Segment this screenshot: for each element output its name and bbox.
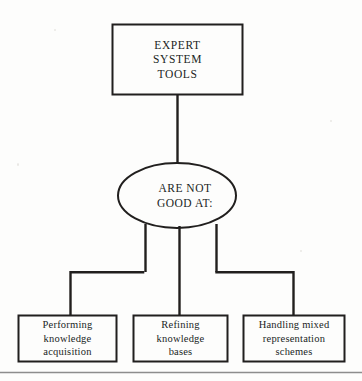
node-refining-knowledge-bases	[134, 316, 228, 362]
diagram-page: EXPERT SYSTEM TOOLS ARE NOT GOOD AT: Per…	[0, 0, 362, 381]
node-performing-knowledge-acquisition	[19, 316, 117, 362]
node-are-not-good-at	[118, 163, 236, 228]
node-handling-mixed-representation-schemes	[244, 316, 345, 362]
flowchart-graphic	[0, 0, 362, 381]
node-expert-system-tools	[113, 25, 243, 95]
